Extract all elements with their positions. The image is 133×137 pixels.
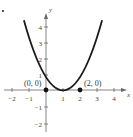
y-axis-arrow-icon: [44, 13, 48, 19]
point-two-zero-label: (2, 0): [84, 79, 102, 88]
y-axis-label: y: [48, 6, 53, 14]
x-tick-label: 2: [78, 95, 82, 103]
parabola-chart: −2 −1 1 2 3 4 4 3 2 1 −1 −2 y x (0, 0) (…: [0, 0, 133, 137]
x-tick-label: 3: [95, 95, 99, 103]
x-axis-label: x: [126, 91, 131, 99]
point-origin: [44, 88, 49, 93]
x-tick-label: −1: [25, 95, 33, 103]
point-origin-label: (0, 0): [24, 79, 42, 88]
x-tick-label: −2: [8, 95, 16, 103]
y-tick-label: 3: [39, 40, 43, 48]
x-tick-label: 4: [112, 95, 116, 103]
x-tick-label: 1: [61, 95, 65, 103]
y-tick-label: 4: [39, 24, 43, 32]
point-two-zero: [78, 88, 83, 93]
y-tick-label: −2: [35, 121, 43, 129]
y-tick-label: −1: [35, 104, 43, 112]
